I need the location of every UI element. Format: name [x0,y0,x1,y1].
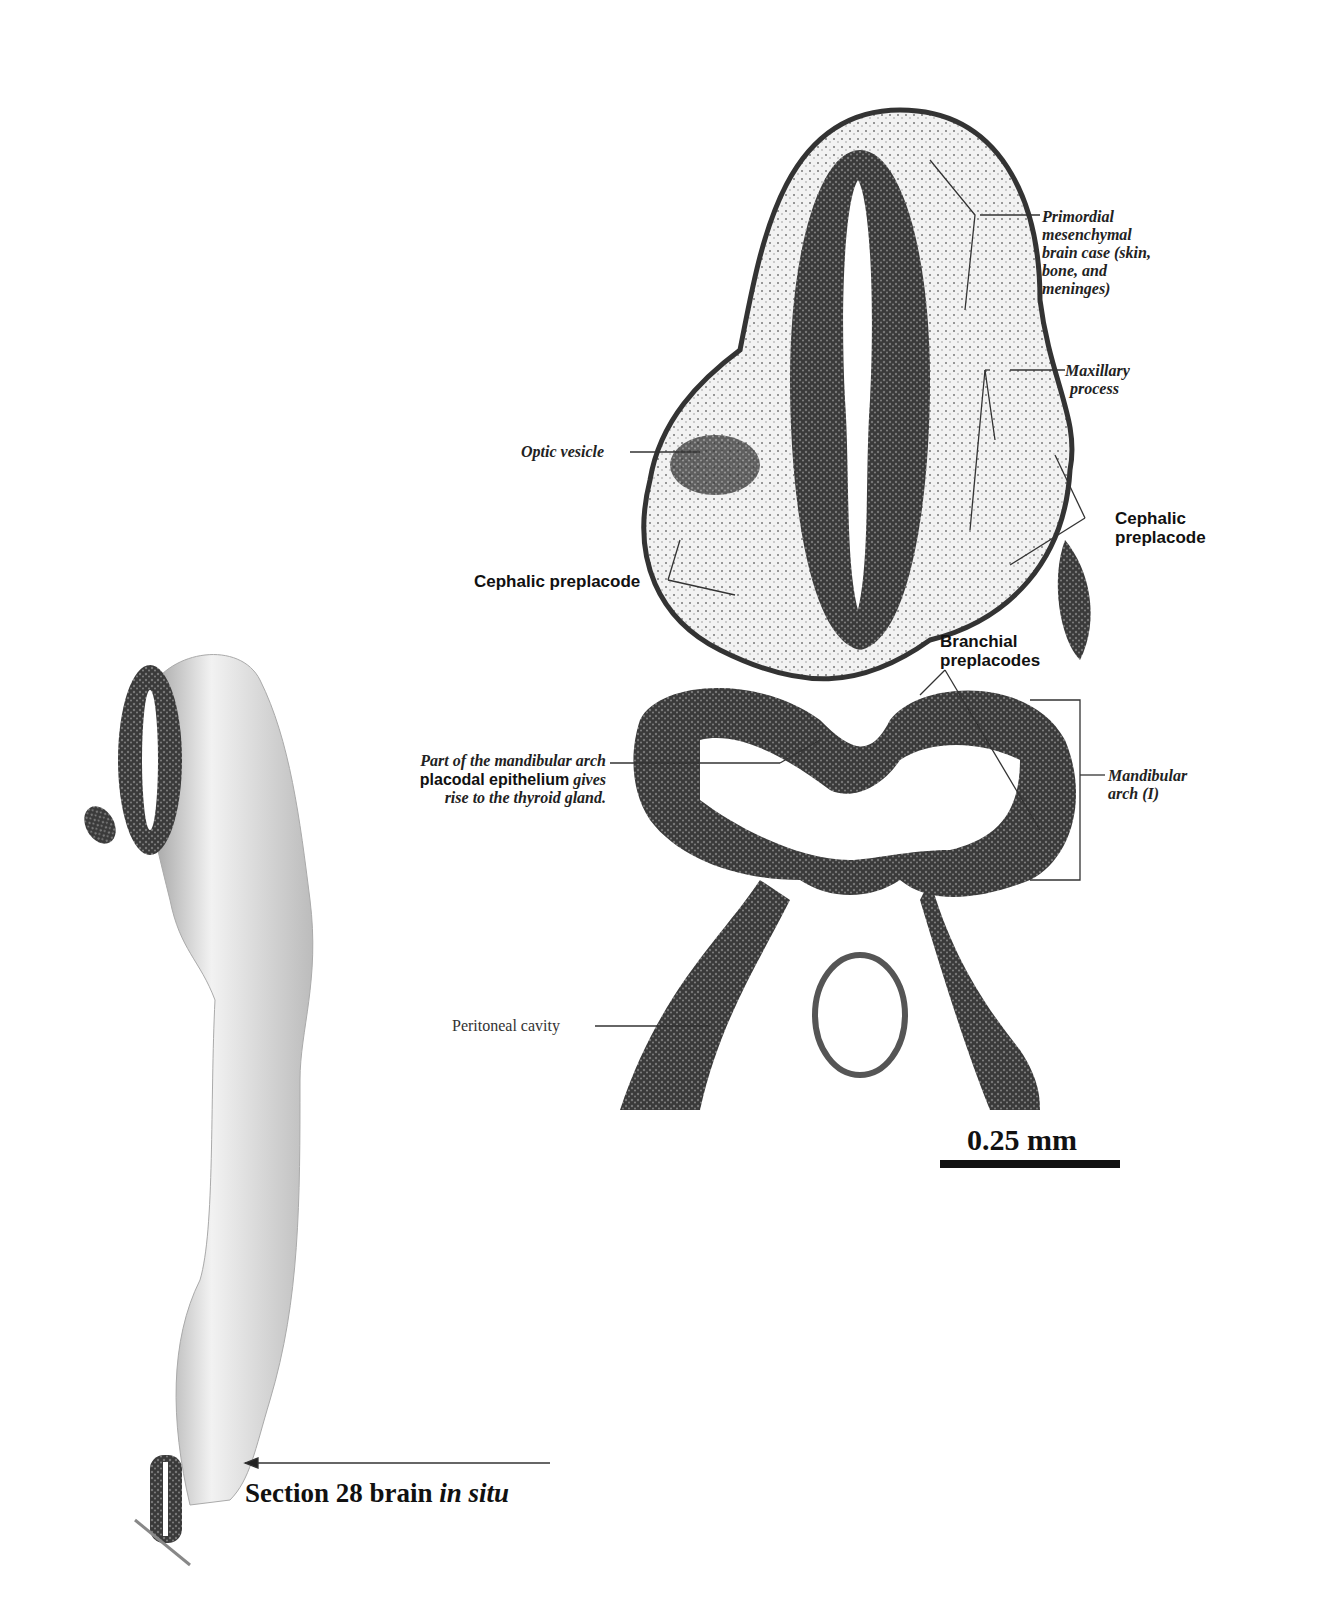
label-line: Primordial [1042,208,1151,226]
note-bold-term: placodal epithelium [420,771,569,788]
label-line: Branchial [940,632,1040,651]
caption-italic: in situ [439,1478,509,1508]
caption-text: Section 28 brain [245,1478,439,1508]
label-maxillary-process: Maxillary process [1065,362,1130,398]
label-primordial-mesenchymal: Primordial mesenchymal brain case (skin,… [1042,208,1151,298]
label-cephalic-preplacode-left: Cephalic preplacode [474,572,640,591]
label-line: meninges) [1042,280,1151,298]
section-caption: Section 28 brain in situ [245,1478,509,1509]
label-line: Maxillary [1065,362,1130,380]
label-line: preplacode [1115,528,1206,547]
label-line: brain case (skin, [1042,244,1151,262]
note-line-3: rise to the thyroid gland. [330,789,606,807]
label-line: preplacodes [940,651,1040,670]
scale-bar-label: 0.25 mm [967,1123,1077,1157]
label-branchial-preplacodes: Branchial preplacodes [940,632,1040,670]
note-line-1: Part of the mandibular arch [330,752,606,770]
head-section [644,110,1091,679]
scale-bar [940,1160,1120,1168]
label-line: Mandibular [1108,767,1187,785]
label-mandibular-arch: Mandibular arch (I) [1108,767,1187,803]
brain-3d-model [78,655,313,1565]
label-line: mesenchymal [1042,226,1151,244]
label-line: arch (I) [1108,785,1187,803]
note-line-2: placodal epithelium gives [330,770,606,789]
label-line: Cephalic [1115,509,1206,528]
label-optic-vesicle: Optic vesicle [521,443,604,461]
label-peritoneal-cavity: Peritoneal cavity [452,1017,560,1035]
label-thyroid-note: Part of the mandibular arch placodal epi… [330,752,606,807]
label-line: process [1065,380,1130,398]
mandibular-section [620,688,1076,1110]
label-cephalic-preplacode-right: Cephalic preplacode [1115,509,1206,547]
label-line: bone, and [1042,262,1151,280]
note-italic-text: gives [569,771,606,788]
